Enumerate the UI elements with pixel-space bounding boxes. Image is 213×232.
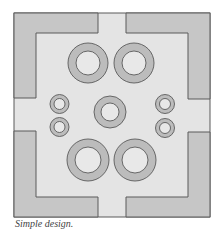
small-ring-left-lower: [50, 118, 69, 137]
design-diagram: [0, 0, 213, 232]
center-ring: [94, 96, 126, 128]
large-ring-top-left: [68, 43, 108, 83]
large-ring-top-right: [114, 43, 154, 83]
small-ring-right-lower: [156, 119, 175, 138]
large-ring-bottom-left: [67, 139, 109, 181]
large-ring-bottom-right: [114, 139, 156, 181]
small-ring-left-upper: [50, 95, 69, 114]
figure-caption: Simple design.: [15, 218, 73, 229]
small-ring-right-upper: [156, 95, 175, 114]
